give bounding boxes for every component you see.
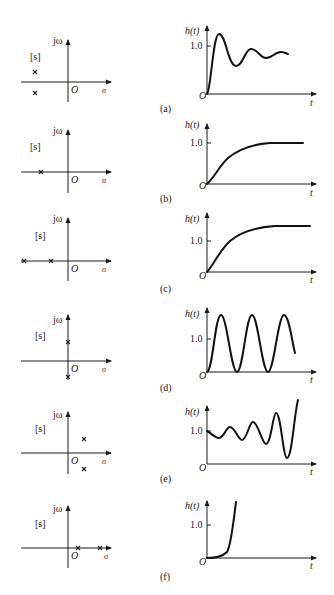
s-plane-label: [s] (30, 51, 41, 62)
tick-label: 1.0 (190, 137, 203, 148)
pole-response-figure: jω [s] O σ h(t) 1.0 O t (a) jω [s] O σ h… (0, 0, 334, 595)
s-plane-c: jω [s] O σ (21, 213, 111, 281)
t-axis-label: t (310, 274, 313, 285)
tick-label: 1.0 (190, 425, 203, 436)
t-axis-label: t (310, 466, 313, 477)
caption-d: (d) (160, 382, 172, 394)
s-plane-label: [s] (35, 330, 46, 341)
jw-label: jω (52, 213, 63, 224)
t-axis-label: t (310, 374, 313, 385)
sigma-label: σ (102, 265, 107, 274)
tick-label: 1.0 (190, 333, 203, 344)
s-plane-b: jω [s] O σ (21, 125, 111, 193)
jw-label: jω (52, 409, 63, 420)
origin-label: O (71, 455, 78, 466)
h-axis-label: h(t) (185, 119, 200, 131)
h-axis-label: h(t) (185, 500, 200, 512)
h-axis-label: h(t) (185, 25, 200, 37)
s-plane-f: jω [s] O σ (21, 503, 111, 568)
response-plot-d: h(t) 1.0 O t (185, 308, 316, 385)
caption-a: (a) (160, 103, 171, 115)
sigma-label: σ (102, 176, 107, 185)
caption-e: (e) (160, 473, 171, 485)
origin-label: O (71, 550, 78, 561)
jw-label: jω (52, 35, 63, 46)
h-axis-label: h(t) (185, 308, 200, 320)
t-axis-label: t (310, 187, 313, 198)
origin-label: O (71, 363, 78, 374)
pole-marker-icon (82, 437, 86, 441)
jw-label: jω (52, 125, 63, 136)
origin-label: O (199, 556, 206, 567)
response-plot-c: h(t) 1.0 O t (185, 213, 316, 285)
tick-label: 1.0 (190, 40, 203, 51)
s-plane-label: [s] (35, 423, 46, 434)
response-plot-f: h(t) 1.0 O t (185, 500, 316, 571)
response-plot-b: h(t) 1.0 O t (185, 119, 316, 198)
t-axis-label: t (310, 97, 313, 108)
sigma-label: σ (104, 552, 109, 561)
caption-b: (b) (160, 193, 172, 205)
s-plane-label: [s] (35, 518, 46, 529)
t-axis-label: t (310, 560, 313, 571)
h-axis-label: h(t) (185, 406, 200, 418)
s-plane-label: [s] (35, 230, 46, 241)
tick-label: 1.0 (190, 519, 203, 530)
origin-label: O (71, 84, 78, 95)
s-plane-d: jω [s] O σ (21, 314, 111, 380)
response-plot-a: h(t) 1.0 O t (185, 25, 316, 108)
sigma-label: σ (102, 86, 107, 95)
pole-marker-icon (82, 467, 86, 471)
jw-label: jω (52, 503, 63, 514)
sigma-label: σ (102, 365, 107, 374)
caption-f: (f) (160, 571, 170, 583)
origin-label: O (199, 270, 206, 281)
jw-label: jω (52, 314, 63, 325)
sigma-label: σ (102, 457, 107, 466)
pole-marker-icon (33, 70, 37, 74)
origin-label: O (199, 90, 206, 101)
caption-c: (c) (160, 283, 171, 295)
origin-label: O (199, 180, 206, 191)
s-plane-a: jω [s] O σ (21, 35, 111, 102)
origin-label: O (199, 370, 206, 381)
origin-label: O (71, 174, 78, 185)
h-axis-label: h(t) (185, 213, 200, 225)
tick-label: 1.0 (190, 235, 203, 246)
s-plane-e: jω [s] O σ (21, 409, 111, 474)
origin-label: O (199, 462, 206, 473)
s-plane-label: [s] (30, 141, 41, 152)
origin-label: O (71, 263, 78, 274)
response-plot-e: h(t) 1.0 O t (185, 400, 316, 477)
pole-marker-icon (33, 91, 37, 95)
